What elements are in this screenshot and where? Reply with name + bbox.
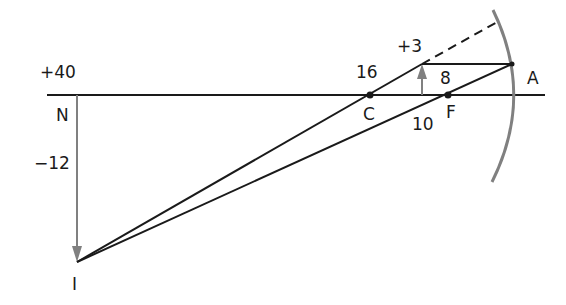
- label-object-height: +3: [397, 38, 422, 55]
- label-f: F: [446, 104, 456, 121]
- label-image-height: −12: [34, 155, 70, 172]
- point-c-dot: [367, 92, 374, 99]
- label-c: C: [363, 106, 375, 123]
- label-image-distance-segment: 10: [412, 116, 434, 133]
- label-a: A: [527, 70, 539, 87]
- label-c-distance: 16: [356, 64, 378, 81]
- mirror-hit-dot: [510, 62, 515, 67]
- label-n: N: [56, 107, 69, 124]
- ray-diagram: [0, 0, 566, 305]
- point-f-dot: [445, 92, 452, 99]
- label-object-distance: +40: [40, 64, 76, 81]
- label-i: I: [72, 276, 77, 293]
- label-focal-distance: 8: [440, 70, 451, 87]
- ray-extension-dashed: [422, 21, 499, 64]
